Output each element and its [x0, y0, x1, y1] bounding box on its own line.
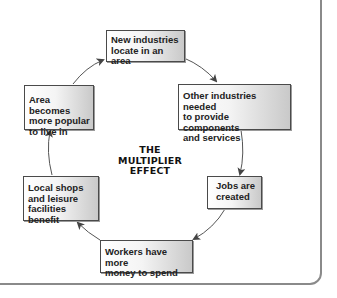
node-local-shops: Local shops and leisure facilities benef… [23, 176, 99, 221]
arrow-n1-n2 [184, 58, 216, 81]
node-text-line: and services [183, 133, 287, 144]
node-text-line: to provide components [183, 112, 287, 133]
node-text-line: New industries [111, 35, 181, 46]
node-text-line: facilities benefit [28, 204, 95, 225]
arrow-n4-n5 [78, 223, 100, 240]
node-text-line: Workers have more [105, 247, 189, 268]
node-text-line: Other industries needed [183, 91, 287, 112]
node-text-line: created [216, 192, 258, 203]
node-workers-money: Workers have more money to spend [100, 240, 193, 273]
title-line: EFFECT [110, 166, 190, 177]
node-text-line: Area becomes [29, 95, 90, 116]
title-line: THE [110, 145, 190, 156]
node-text-line: Jobs are [216, 181, 258, 192]
node-other-industries: Other industries needed to provide compo… [178, 84, 291, 130]
node-jobs-created: Jobs are created [207, 176, 262, 209]
node-text-line: to live in [29, 127, 90, 138]
node-text-line: Local shops [28, 183, 95, 194]
node-area-popular: Area becomes more popular to live in [24, 85, 94, 130]
node-new-industries: New industries locate in an area [106, 30, 185, 62]
node-text-line: locate in an area [111, 46, 181, 67]
arrow-n6-n1 [73, 60, 103, 84]
arrow-n5-n6 [48, 131, 52, 175]
arrow-n3-n4 [194, 209, 225, 239]
node-text-line: money to spend [105, 268, 189, 279]
diagram-title: THE MULTIPLIER EFFECT [110, 145, 190, 177]
node-text-line: more popular [29, 116, 90, 127]
